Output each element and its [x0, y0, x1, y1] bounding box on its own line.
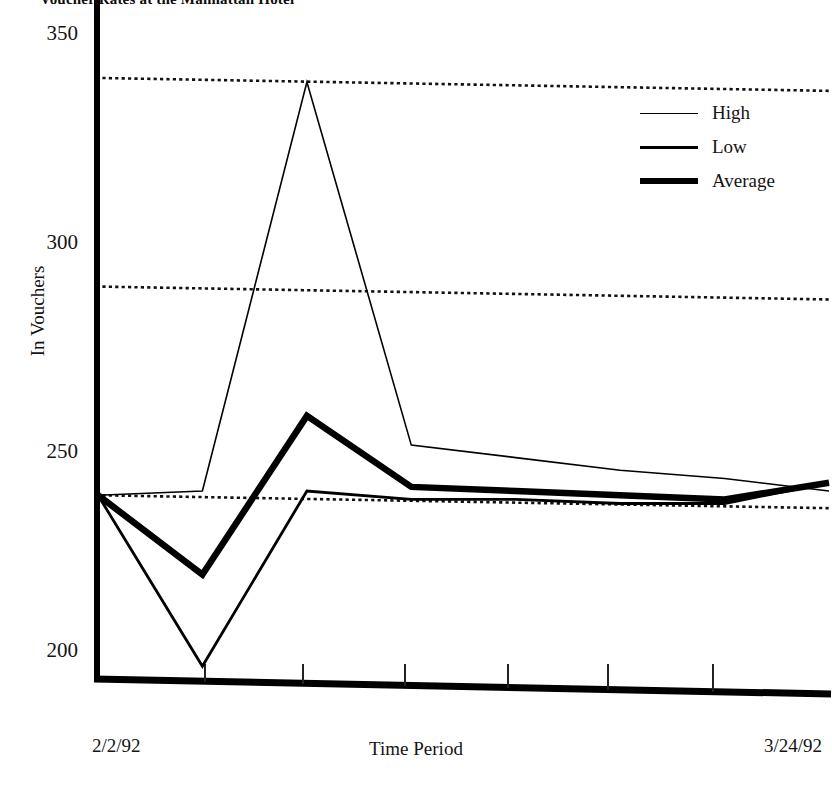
- legend-label-high: High: [712, 102, 750, 124]
- legend-label-low: Low: [712, 136, 747, 158]
- legend-swatch-high-icon: [640, 113, 698, 114]
- legend-swatch-low-icon: [640, 146, 698, 149]
- legend-item-average: Average: [640, 164, 820, 198]
- legend-item-high: High: [640, 96, 820, 130]
- legend-label-average: Average: [712, 170, 775, 192]
- gridline-345: [96, 78, 830, 91]
- x-axis-end-label: 3/24/92: [764, 735, 822, 757]
- series-line-low: [98, 483, 829, 667]
- legend-swatch-average-icon: [640, 178, 698, 184]
- legend-item-low: Low: [640, 130, 820, 164]
- chart-legend: High Low Average: [640, 96, 820, 198]
- series-line-average: [98, 416, 829, 575]
- chart-container: Voucher Rates at the Manhattan Hotel 350…: [0, 0, 832, 788]
- x-axis-title: Time Period: [0, 738, 832, 760]
- gridline-295: [96, 287, 830, 300]
